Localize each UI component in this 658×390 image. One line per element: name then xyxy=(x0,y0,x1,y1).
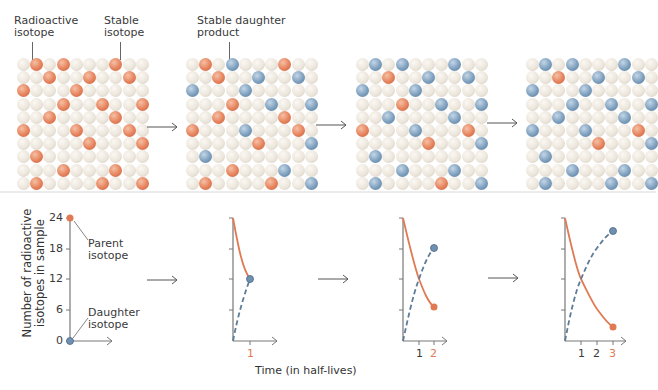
x-tick: 1 xyxy=(578,348,585,360)
y-tick: 18 xyxy=(49,243,63,255)
y-tick: 0 xyxy=(56,335,63,347)
chart-t1 xyxy=(229,218,277,345)
y-tick: 24 xyxy=(49,212,63,224)
chart-t3 xyxy=(561,218,626,345)
y-tick: 6 xyxy=(56,304,63,316)
x-tick: 3 xyxy=(609,348,616,360)
arrow-right-icon xyxy=(147,274,518,284)
x-tick: 1 xyxy=(416,348,423,360)
x-axis-label: Time (in half-lives) xyxy=(255,364,357,377)
x-tick: 1 xyxy=(247,348,254,360)
chart-t2 xyxy=(399,218,447,345)
parent-isotope-label: Parent isotope xyxy=(88,238,128,262)
x-tick: 2 xyxy=(593,348,600,360)
x-tick: 2 xyxy=(430,348,437,360)
daughter-isotope-label: Daughter isotope xyxy=(88,307,140,331)
y-tick: 12 xyxy=(49,273,63,285)
